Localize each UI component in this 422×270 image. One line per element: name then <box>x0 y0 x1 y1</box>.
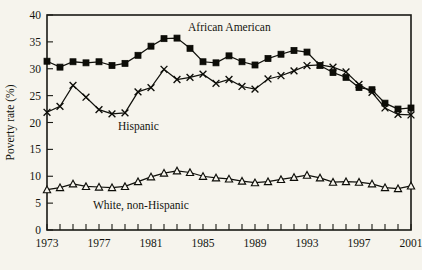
series-label-african-american: African American <box>188 21 271 33</box>
y-axis-tick-label: 25 <box>30 90 42 102</box>
series-line-0 <box>47 38 411 109</box>
y-axis-tick-label: 10 <box>30 170 42 182</box>
data-point-0-5 <box>109 63 115 69</box>
data-point-2-20 <box>303 172 310 179</box>
y-axis-tick-label: 30 <box>30 63 42 75</box>
data-point-0-18 <box>278 51 284 57</box>
data-point-0-23 <box>343 74 349 80</box>
x-axis-tick-label: 1989 <box>244 237 267 249</box>
data-point-0-19 <box>291 47 297 53</box>
data-point-1-4 <box>96 106 103 113</box>
x-axis-tick-label: 2001 <box>400 237 422 249</box>
data-point-0-22 <box>330 70 336 76</box>
data-point-0-27 <box>395 106 401 112</box>
x-axis-tick-label: 1973 <box>36 237 59 249</box>
data-point-0-2 <box>70 59 76 65</box>
y-axis-tick-label: 20 <box>30 117 42 129</box>
data-point-0-17 <box>265 56 271 62</box>
data-point-0-8 <box>148 43 154 49</box>
y-axis-tick-label: 5 <box>35 197 41 209</box>
data-point-0-13 <box>213 60 219 66</box>
y-axis-tick-label: 15 <box>30 143 42 155</box>
data-point-0-14 <box>226 53 232 59</box>
data-point-0-9 <box>161 36 167 42</box>
data-point-0-1 <box>57 64 63 70</box>
data-point-0-6 <box>122 60 128 66</box>
data-point-0-7 <box>135 52 141 58</box>
data-point-0-15 <box>239 59 245 65</box>
x-axis-tick-label: 1985 <box>192 237 215 249</box>
data-point-1-7 <box>135 88 142 95</box>
chart-canvas: 0510152025303540197319771981198519891993… <box>0 0 422 270</box>
poverty-rate-chart: 0510152025303540197319771981198519891993… <box>0 0 422 270</box>
x-axis-tick-label: 1997 <box>348 237 371 249</box>
data-point-1-13 <box>213 80 220 87</box>
data-point-0-20 <box>304 49 310 55</box>
data-point-0-28 <box>408 105 414 111</box>
data-point-1-3 <box>83 94 90 101</box>
data-point-1-8 <box>148 84 155 91</box>
y-axis-title: Poverty rate (%) <box>4 84 17 160</box>
data-point-1-14 <box>226 76 233 83</box>
x-axis-tick-label: 1993 <box>296 237 319 249</box>
x-axis-tick-label: 1981 <box>140 237 163 249</box>
data-point-0-12 <box>200 59 206 65</box>
data-point-0-16 <box>252 62 258 68</box>
data-point-0-4 <box>96 59 102 65</box>
data-point-2-2 <box>69 180 76 187</box>
data-point-1-1 <box>57 103 64 110</box>
series-label-white-non-hispanic: White, non-Hispanic <box>93 199 189 212</box>
data-point-1-2 <box>70 82 77 89</box>
data-point-1-19 <box>291 68 298 75</box>
y-axis-tick-label: 35 <box>30 36 42 48</box>
data-point-1-9 <box>161 66 168 73</box>
data-point-2-28 <box>407 182 414 189</box>
data-point-0-0 <box>44 58 50 64</box>
y-axis-tick-label: 40 <box>30 9 42 21</box>
y-axis-tick-label: 0 <box>35 224 41 236</box>
data-point-0-3 <box>83 60 89 66</box>
data-point-0-10 <box>174 35 180 41</box>
x-axis-tick-label: 1977 <box>88 237 111 249</box>
data-point-0-11 <box>187 45 193 51</box>
plot-frame <box>47 15 411 230</box>
series-label-hispanic: Hispanic <box>118 120 159 133</box>
